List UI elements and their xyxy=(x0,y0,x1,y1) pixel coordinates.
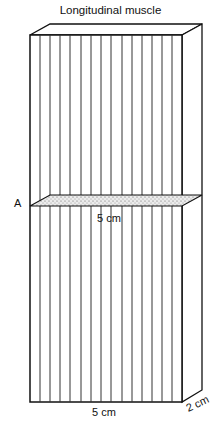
section-label: A xyxy=(14,197,21,209)
side-face xyxy=(182,24,202,402)
bottom-width-label: 5 cm xyxy=(92,406,116,418)
diagram-title: Longitudinal muscle xyxy=(0,4,221,16)
top-face xyxy=(30,24,202,35)
section-width-label: 5 cm xyxy=(97,212,121,224)
cross-section-a xyxy=(30,195,202,206)
